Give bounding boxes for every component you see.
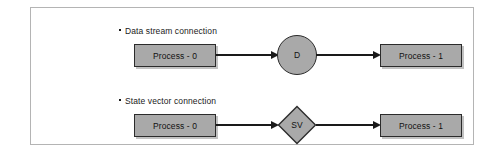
node-label: SV xyxy=(277,105,317,145)
connector-source-to-node xyxy=(216,50,279,60)
caption-data-stream: Data stream connection xyxy=(119,26,217,37)
node-state-vector[interactable]: SV xyxy=(277,105,317,145)
connector-source-to-node xyxy=(216,120,279,130)
process-source-label: Process - 0 xyxy=(153,51,197,61)
connector-node-to-target xyxy=(316,50,381,60)
process-target-label: Process - 1 xyxy=(399,121,443,131)
connector-node-to-target xyxy=(316,120,381,130)
process-source-label: Process - 0 xyxy=(153,121,197,131)
process-target-box[interactable]: Process - 1 xyxy=(380,44,462,67)
node-label: D xyxy=(294,50,300,60)
figure-frame: Data stream connection Process - 0 D xyxy=(30,7,474,145)
process-source-box[interactable]: Process - 0 xyxy=(134,44,216,67)
bullet-icon xyxy=(119,29,121,31)
diagram-figure: Data stream connection Process - 0 D xyxy=(0,0,503,154)
caption-label: Data stream connection xyxy=(125,26,217,37)
process-source-box[interactable]: Process - 0 xyxy=(134,114,216,137)
bullet-icon xyxy=(119,99,121,101)
caption-state-vector: State vector connection xyxy=(119,96,216,107)
node-data-stream[interactable]: D xyxy=(277,35,317,75)
process-target-box[interactable]: Process - 1 xyxy=(380,114,462,137)
process-target-label: Process - 1 xyxy=(399,51,443,61)
caption-label: State vector connection xyxy=(125,96,216,107)
